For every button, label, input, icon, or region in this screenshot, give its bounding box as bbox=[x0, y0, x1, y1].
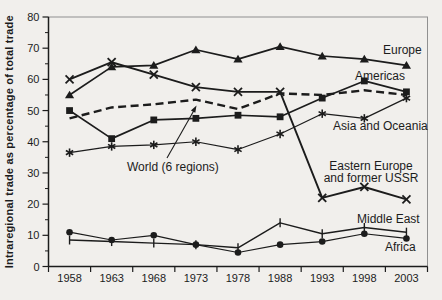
series-label-eastern-europe: and former USSR bbox=[324, 171, 419, 185]
x-tick-label-1993: 1993 bbox=[310, 272, 334, 284]
series-marker-americas bbox=[277, 113, 284, 120]
series-marker-americas bbox=[192, 115, 199, 122]
x-tick-label-1973: 1973 bbox=[184, 272, 208, 284]
y-tick-label-20: 20 bbox=[27, 198, 39, 210]
y-tick-label-30: 30 bbox=[27, 167, 39, 179]
x-tick-label-2003: 2003 bbox=[394, 272, 418, 284]
series-marker-americas bbox=[108, 135, 115, 142]
series-marker-africa bbox=[108, 237, 115, 244]
y-tick-label-50: 50 bbox=[27, 105, 39, 117]
y-tick-label-0: 0 bbox=[33, 261, 39, 273]
x-tick-label-1958: 1958 bbox=[57, 272, 81, 284]
x-tick-label-1978: 1978 bbox=[226, 272, 250, 284]
trade-chart-figure: 0102030405060708019581963196819731978198… bbox=[0, 0, 442, 300]
series-marker-africa bbox=[277, 241, 284, 248]
series-label-americas: Americas bbox=[355, 69, 405, 83]
y-tick-label-70: 70 bbox=[27, 42, 39, 54]
y-tick-label-10: 10 bbox=[27, 229, 39, 241]
x-tick-label-1998: 1998 bbox=[352, 272, 376, 284]
series-marker-americas bbox=[235, 112, 242, 119]
series-label-europe: Europe bbox=[383, 43, 422, 57]
series-label-africa: Africa bbox=[385, 240, 416, 254]
series-marker-americas bbox=[66, 107, 73, 114]
x-tick-label-1988: 1988 bbox=[268, 272, 292, 284]
x-tick-label-1963: 1963 bbox=[99, 272, 123, 284]
y-axis-title: Intraregional trade as percentage of tot… bbox=[3, 15, 15, 268]
series-marker-americas bbox=[150, 117, 157, 124]
series-marker-africa bbox=[361, 230, 368, 237]
y-tick-label-40: 40 bbox=[27, 136, 39, 148]
plot-frame bbox=[49, 17, 428, 267]
series-marker-europe bbox=[276, 42, 285, 50]
series-label-middle-east: Middle East bbox=[357, 212, 420, 226]
x-tick-label-1968: 1968 bbox=[142, 272, 166, 284]
series-marker-africa bbox=[66, 229, 73, 236]
y-tick-label-60: 60 bbox=[27, 73, 39, 85]
series-marker-africa bbox=[319, 238, 326, 245]
series-marker-africa bbox=[235, 249, 242, 256]
y-tick-label-80: 80 bbox=[27, 11, 39, 23]
series-label-world: World (6 regions) bbox=[127, 160, 219, 174]
world-annotation-arrowhead bbox=[191, 106, 197, 113]
series-marker-africa bbox=[150, 232, 157, 239]
intraregional-trade-line-chart: 0102030405060708019581963196819731978198… bbox=[0, 0, 442, 300]
series-marker-europe bbox=[191, 45, 200, 53]
series-label-asia-and-oceania: Asia and Oceania bbox=[333, 119, 428, 133]
series-marker-africa bbox=[193, 241, 200, 248]
world-annotation-arrow bbox=[167, 110, 195, 159]
